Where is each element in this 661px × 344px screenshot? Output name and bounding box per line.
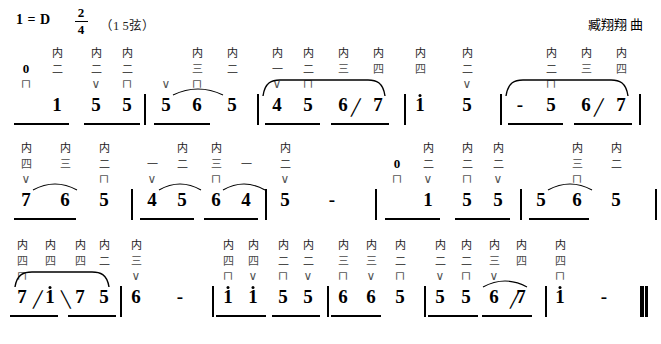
inner-string-mark: 内 xyxy=(387,238,413,253)
note-number: 5 xyxy=(603,187,629,213)
rest-marker: 0 xyxy=(384,156,410,172)
octave-dot-wrapper: 1 xyxy=(223,284,233,310)
eighth-beam xyxy=(455,218,510,220)
note-cell: - xyxy=(319,141,345,213)
string-number-mark: 三 xyxy=(330,253,356,269)
note-cell: 一4 xyxy=(233,141,259,213)
barline xyxy=(375,189,377,220)
inner-string-mark: 内 xyxy=(454,46,480,61)
note-cell: 内二5 xyxy=(169,141,195,213)
barline xyxy=(327,286,329,317)
string-number-mark: 三 xyxy=(123,253,149,269)
bow-direction-mark: ⊓ xyxy=(547,269,573,284)
bow-direction-mark: ∨ xyxy=(123,269,149,284)
note-number: 5 xyxy=(91,187,117,213)
inner-string-mark: 内 xyxy=(454,141,480,156)
inner-string-mark: 内 xyxy=(123,238,149,253)
string-number-mark: 二 xyxy=(387,253,413,269)
note-cell: 内三⊓6 xyxy=(203,141,229,213)
final-barline xyxy=(640,286,650,317)
string-number-mark: 二 xyxy=(427,253,453,269)
string-number-mark: 三 xyxy=(481,253,507,269)
bow-direction-mark: ⊓ xyxy=(215,269,241,284)
note-cell: 内二∨1 xyxy=(415,141,441,213)
barline xyxy=(424,286,426,317)
string-number-mark: 四 xyxy=(9,253,35,269)
string-number-mark: 二 xyxy=(453,253,479,269)
note-number-high-octave: 1 xyxy=(407,92,433,118)
string-number-mark: 三 xyxy=(203,156,229,172)
staff-line-1: 0⊓内二1内二∨5内二⊓5∨5内三⊓6内二5内一∨4内二⊓5内三6内四7内四1内… xyxy=(0,46,661,141)
eighth-beam xyxy=(14,218,76,220)
slide-up-mark: ╱ xyxy=(33,292,43,308)
time-signature: 2 4 xyxy=(70,6,92,36)
note-cell: 内二⊓5 xyxy=(91,141,117,213)
barline xyxy=(212,286,214,317)
barline xyxy=(655,189,657,220)
note-number: 5 xyxy=(387,284,413,310)
eighth-beam xyxy=(265,123,320,125)
composer-credit: 臧翔翔 曲 xyxy=(588,14,643,33)
string-number-mark: 四 xyxy=(67,253,93,269)
string-number-mark: 三 xyxy=(52,156,78,172)
note-cell: 内三6 xyxy=(52,141,78,213)
string-number-mark: 一 xyxy=(139,156,165,172)
bow-direction-mark: ∨ xyxy=(415,172,441,187)
string-number-mark: 二 xyxy=(295,253,321,269)
note-number: 5 xyxy=(485,187,511,213)
bow-direction-mark: ∨ xyxy=(83,77,109,92)
string-number-mark: 二 xyxy=(219,61,245,77)
note-number: 6 xyxy=(358,284,384,310)
inner-string-mark: 内 xyxy=(215,238,241,253)
inner-string-mark: 内 xyxy=(295,238,321,253)
eighth-beam xyxy=(428,315,478,317)
note-cell: 内二∨5 xyxy=(83,46,109,118)
bow-direction-mark: ⊓ xyxy=(453,269,479,284)
inner-string-mark: 内 xyxy=(13,141,39,156)
bow-direction-mark: ⊓ xyxy=(270,269,296,284)
eighth-beam xyxy=(508,123,563,125)
slide-down-mark: ╲ xyxy=(61,292,71,308)
note-number: 5 xyxy=(114,92,140,118)
eighth-beam xyxy=(331,123,389,125)
barline xyxy=(404,94,406,125)
string-number-mark: 二 xyxy=(270,253,296,269)
string-number-mark: 二 xyxy=(91,253,117,269)
inner-string-mark: 内 xyxy=(272,141,298,156)
note-cell: 内二5 xyxy=(219,46,245,118)
string-number-mark: 二 xyxy=(454,61,480,77)
note-cell: 内二∨5 xyxy=(485,141,511,213)
key-signature: 1 = D xyxy=(16,12,51,28)
sheet-music-page: 1 = D 2 4 （1 5弦） 臧翔翔 曲 0⊓内二1内二∨5内二⊓5∨5内三… xyxy=(0,0,661,344)
octave-dot-wrapper: 1 xyxy=(415,92,425,118)
note-number: 5 xyxy=(295,284,321,310)
note-cell: 内二⊓5 xyxy=(270,238,296,310)
note-number: 6 xyxy=(330,284,356,310)
string-number-mark: 三 xyxy=(564,156,590,172)
staff-line-3: 内四⊓7内四1内四7内二5内三∨6-内四⊓1内四∨1内二⊓5内二∨5内三⊓6内三… xyxy=(0,238,661,333)
note-cell: 内二∨5 xyxy=(454,46,480,118)
note-cell: ∨5 xyxy=(153,46,179,118)
string-number-mark: 二 xyxy=(603,156,629,172)
octave-dot-wrapper: 1 xyxy=(248,284,258,310)
eighth-beam xyxy=(216,315,266,317)
inner-string-mark: 内 xyxy=(37,238,63,253)
bow-direction-mark: ⊓ xyxy=(387,269,413,284)
string-number-mark: 四 xyxy=(547,253,573,269)
note-cell: 内二⊓5 xyxy=(114,46,140,118)
inner-string-mark: 内 xyxy=(407,46,433,61)
note-number-high-octave: 1 xyxy=(215,284,241,310)
note-number: 5 xyxy=(453,284,479,310)
inner-string-mark: 内 xyxy=(573,46,599,61)
hold-dash: - xyxy=(319,187,345,213)
note-number: 6 xyxy=(123,284,149,310)
string-number-mark: 二 xyxy=(83,61,109,77)
note-cell: 内二∨5 xyxy=(427,238,453,310)
note-number: 5 xyxy=(270,284,296,310)
string-number-mark: 一 xyxy=(264,61,290,77)
inner-string-mark: 内 xyxy=(508,238,534,253)
string-number-mark: 四 xyxy=(240,253,266,269)
string-number-mark: 三 xyxy=(184,61,210,77)
slur-arc xyxy=(32,179,78,192)
eighth-beam xyxy=(14,123,69,125)
